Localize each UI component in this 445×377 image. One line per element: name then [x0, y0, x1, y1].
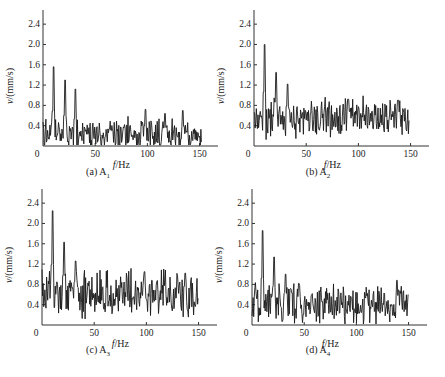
x-tick-label: 0	[34, 328, 39, 338]
spectrum-line	[252, 231, 408, 324]
x-tick-label: 150	[192, 149, 207, 159]
caption-d: (d) A4	[278, 344, 358, 358]
y-tick-label: 0.8	[28, 100, 40, 110]
caption-b-sub: 2	[327, 172, 331, 180]
y-tick-label: 1.6	[27, 239, 39, 249]
y-tick-label: 2.0	[28, 39, 40, 49]
x-tick-label: 50	[89, 328, 99, 338]
y-axis-title: v/(mm/s)	[4, 68, 16, 104]
x-tick-label: 150	[191, 328, 206, 338]
y-tick-label: 1.2	[28, 80, 40, 90]
y-tick-label: 2.4	[237, 198, 249, 208]
x-tick-label: 100	[349, 328, 364, 338]
subplot-d: 0.40.81.21.62.02.4050100150f/Hzv/(mm/s) …	[222, 190, 444, 377]
subplot-a: 0.40.81.21.62.02.4050100150f/Hzv/(mm/s) …	[0, 0, 222, 188]
x-tick-label: 50	[90, 149, 100, 159]
y-axis-title: v/(mm/s)	[3, 247, 15, 283]
spectrum-line	[254, 45, 409, 140]
y-tick-label: 1.6	[239, 60, 251, 70]
y-tick-label: 2.0	[237, 218, 249, 228]
y-tick-label: 1.2	[27, 259, 39, 269]
caption-d-sub: 4	[327, 350, 331, 358]
y-axis-title: v/(mm/s)	[213, 247, 225, 283]
caption-a: (a) A1	[58, 166, 138, 180]
y-tick-label: 1.6	[28, 60, 40, 70]
caption-c: (c) A3	[58, 344, 138, 358]
caption-d-text: (d) A	[306, 344, 327, 355]
x-tick-label: 0	[244, 328, 249, 338]
x-tick-label: 150	[403, 149, 418, 159]
y-tick-label: 2.4	[28, 19, 40, 29]
y-tick-label: 2.4	[239, 19, 251, 29]
caption-b-text: (b) A	[306, 166, 327, 177]
x-tick-label: 50	[299, 328, 309, 338]
caption-c-sub: 3	[106, 350, 110, 358]
y-tick-label: 2.0	[239, 39, 251, 49]
x-tick-label: 100	[140, 149, 155, 159]
x-tick-label: 50	[301, 149, 311, 159]
y-tick-label: 2.4	[27, 198, 39, 208]
y-tick-label: 1.2	[237, 259, 249, 269]
caption-c-text: (c) A	[86, 344, 106, 355]
y-tick-label: 0.8	[237, 279, 249, 289]
y-tick-label: 0.4	[27, 300, 39, 310]
caption-a-text: (a) A	[86, 166, 106, 177]
caption-a-sub: 1	[106, 172, 110, 180]
x-tick-label: 0	[246, 149, 251, 159]
y-tick-label: 0.4	[237, 300, 249, 310]
x-tick-label: 0	[35, 149, 40, 159]
y-tick-label: 0.8	[27, 279, 39, 289]
x-tick-label: 100	[351, 149, 366, 159]
x-tick-label: 100	[139, 328, 154, 338]
plot-b: 0.40.81.21.62.02.4050100150f/Hzv/(mm/s)	[222, 0, 444, 188]
y-tick-label: 0.4	[28, 121, 40, 131]
spectrum-line	[43, 67, 201, 145]
y-tick-label: 0.4	[239, 121, 251, 131]
subplot-b: 0.40.81.21.62.02.4050100150f/Hzv/(mm/s) …	[222, 0, 444, 188]
subplot-c: 0.40.81.21.62.02.4050100150f/Hzv/(mm/s) …	[0, 190, 222, 377]
plot-a: 0.40.81.21.62.02.4050100150f/Hzv/(mm/s)	[0, 0, 222, 188]
y-axis-title: v/(mm/s)	[215, 68, 227, 104]
y-tick-label: 1.6	[237, 239, 249, 249]
x-tick-label: 150	[401, 328, 416, 338]
y-tick-label: 0.8	[239, 100, 251, 110]
spectrum-line	[42, 211, 198, 319]
y-tick-label: 1.2	[239, 80, 251, 90]
caption-b: (b) A2	[278, 166, 358, 180]
y-tick-label: 2.0	[27, 218, 39, 228]
